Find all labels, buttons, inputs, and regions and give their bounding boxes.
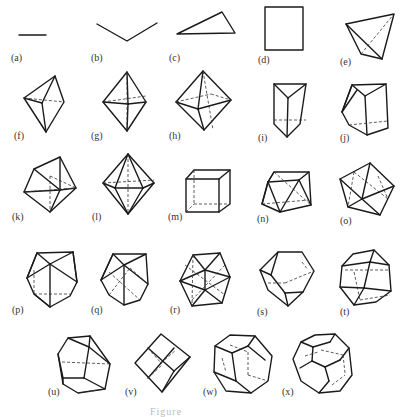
label-f: (f) <box>14 131 24 141</box>
label-v: (v) <box>125 387 137 397</box>
label-n: (n) <box>257 214 269 224</box>
shape-p-polyhedron <box>27 252 77 307</box>
shape-n-square-antiprism <box>262 172 311 212</box>
label-m: (m) <box>168 212 182 222</box>
label-b: (b) <box>91 53 103 63</box>
label-e: (e) <box>340 57 351 67</box>
label-l: (l) <box>92 212 101 222</box>
label-t: (t) <box>340 307 349 317</box>
shape-x-truncated <box>293 334 352 393</box>
shape-c-triangle <box>177 12 235 34</box>
shape-u-polyhedron <box>58 336 110 393</box>
label-q: (q) <box>91 305 103 315</box>
shape-i-trigonal-prism <box>274 84 306 137</box>
shape-d-square <box>265 7 303 50</box>
label-j: (j) <box>340 133 349 143</box>
label-s: (s) <box>257 307 268 317</box>
shape-m-cube <box>186 170 230 212</box>
shape-f-trigonal-bipyramid <box>24 76 64 132</box>
figure-caption: Figure <box>150 406 182 417</box>
shape-h-pentagonal-bipyramid <box>176 71 231 130</box>
shape-t-polyhedron <box>340 250 391 305</box>
shape-v-rhombic-dodecahedron <box>135 334 190 392</box>
label-c: (c) <box>169 53 180 63</box>
shape-r-icosahedron <box>180 253 230 306</box>
shape-w-dodecahedron <box>214 335 272 393</box>
label-x: (x) <box>282 387 294 397</box>
label-d: (d) <box>258 55 270 65</box>
shape-s-polyhedron <box>260 252 314 306</box>
shape-j-capped-trigonal-prism <box>342 84 388 135</box>
label-u: (u) <box>48 387 60 397</box>
shape-o-polyhedron <box>340 163 394 215</box>
shape-g-octahedron <box>103 72 146 131</box>
label-h: (h) <box>169 131 181 141</box>
label-w: (w) <box>203 387 217 397</box>
label-r: (r) <box>170 305 180 315</box>
label-g: (g) <box>91 131 103 141</box>
shape-l-bicapped <box>103 154 154 214</box>
label-p: (p) <box>12 305 24 315</box>
shape-k-polyhedron <box>24 157 76 212</box>
label-i: (i) <box>258 133 267 143</box>
shape-e-tetrahedron <box>346 14 394 59</box>
shape-b-bent-line <box>97 23 157 41</box>
label-a: (a) <box>11 53 22 63</box>
label-o: (o) <box>340 216 352 226</box>
label-k: (k) <box>12 212 24 222</box>
shape-q-polyhedron <box>101 254 148 305</box>
